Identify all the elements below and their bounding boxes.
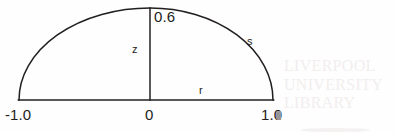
- watermark-line-2: UNIVERSITY: [284, 76, 397, 95]
- watermark-line-1: LIVERPOOL: [284, 57, 397, 76]
- radial-axis-label: r: [199, 85, 203, 96]
- x-axis-zero-tick-label: 0: [145, 107, 153, 122]
- vertical-axis-label: z: [132, 44, 138, 55]
- scan-artifact-mark: [276, 111, 281, 120]
- watermark-line-3: LIBRARY: [284, 94, 397, 113]
- watermark-smudge: [300, 128, 370, 132]
- library-watermark: LIVERPOOL UNIVERSITY LIBRARY: [284, 57, 397, 113]
- x-axis-min-tick-label: -1.0: [5, 107, 31, 122]
- arc-length-label: s: [247, 36, 253, 47]
- dome-arc-path: [19, 8, 273, 100]
- height-value-label: 0.6: [154, 9, 175, 24]
- figure-canvas: 0.6 z s r -1.0 0 1.0 LIVERPOOL UNIVERSIT…: [0, 0, 397, 133]
